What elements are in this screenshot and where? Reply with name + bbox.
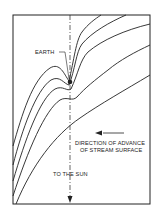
stream-line-3: [13, 24, 150, 181]
direction-label-line1: DIRECTION OF ADVANCE: [75, 140, 145, 146]
stream-line-1: [13, 15, 101, 146]
earth-label: EARTH: [35, 49, 54, 55]
sun-arrowhead-icon: [68, 196, 73, 203]
direction-label-line2: OF STREAM SURFACE: [80, 147, 142, 153]
earth-marker: [68, 80, 73, 85]
left-arrow-icon: [95, 131, 102, 136]
sun-label: TO THE SUN: [53, 171, 88, 177]
stream-surface-diagram: EARTH DIRECTION OF ADVANCE OF STREAM SUR…: [0, 0, 159, 213]
